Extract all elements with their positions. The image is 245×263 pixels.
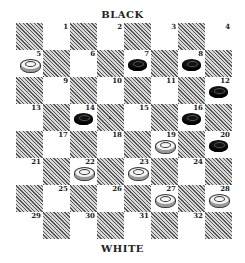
black-checker-piece[interactable] — [128, 59, 147, 71]
dark-square — [43, 158, 70, 185]
black-checker-piece[interactable] — [74, 113, 93, 125]
square-13[interactable]: 13 — [16, 104, 43, 131]
square-number: 29 — [31, 212, 41, 220]
square-25[interactable]: 25 — [43, 185, 70, 212]
square-number: 16 — [193, 104, 203, 112]
dark-square — [43, 212, 70, 239]
dark-square — [151, 104, 178, 131]
square-18[interactable]: 18 — [97, 131, 124, 158]
square-number: 5 — [36, 50, 41, 58]
square-number: 14 — [85, 104, 95, 112]
white-checker-piece[interactable] — [209, 194, 230, 208]
square-number: 2 — [117, 23, 122, 31]
square-20[interactable]: 20 — [205, 131, 232, 158]
white-checker-piece[interactable] — [155, 140, 176, 154]
square-30[interactable]: 30 — [70, 212, 97, 239]
square-26[interactable]: 26 — [97, 185, 124, 212]
square-number: 27 — [166, 185, 176, 193]
square-number: 13 — [31, 104, 41, 112]
square-3[interactable]: 3 — [151, 23, 178, 50]
square-number: 19 — [166, 131, 176, 139]
dark-square — [178, 131, 205, 158]
dark-square — [124, 185, 151, 212]
marker-dot — [109, 117, 111, 119]
dark-square — [205, 50, 232, 77]
dark-square — [97, 158, 124, 185]
square-5[interactable]: 5 — [16, 50, 43, 77]
dark-square — [70, 23, 97, 50]
square-number: 10 — [112, 77, 122, 85]
square-8[interactable]: 8 — [178, 50, 205, 77]
square-number: 21 — [31, 158, 41, 166]
checkers-board: 1234567891011121314151617181920212223242… — [16, 23, 232, 239]
square-11[interactable]: 11 — [151, 77, 178, 104]
square-2[interactable]: 2 — [97, 23, 124, 50]
square-number: 32 — [193, 212, 203, 220]
square-number: 20 — [220, 131, 230, 139]
dark-square — [205, 212, 232, 239]
square-6[interactable]: 6 — [70, 50, 97, 77]
square-10[interactable]: 10 — [97, 77, 124, 104]
square-number: 7 — [144, 50, 149, 58]
bottom-side-label: WHITE — [0, 243, 245, 254]
dark-square — [178, 77, 205, 104]
dark-square — [151, 50, 178, 77]
square-number: 22 — [85, 158, 95, 166]
square-number: 11 — [166, 77, 176, 85]
black-checker-piece[interactable] — [209, 86, 228, 98]
square-12[interactable]: 12 — [205, 77, 232, 104]
dark-square — [124, 131, 151, 158]
square-9[interactable]: 9 — [43, 77, 70, 104]
square-27[interactable]: 27 — [151, 185, 178, 212]
square-number: 28 — [220, 185, 230, 193]
square-number: 3 — [171, 23, 176, 31]
white-checker-piece[interactable] — [20, 59, 41, 73]
dark-square — [205, 104, 232, 131]
square-21[interactable]: 21 — [16, 158, 43, 185]
square-28[interactable]: 28 — [205, 185, 232, 212]
square-4[interactable]: 4 — [205, 23, 232, 50]
square-number: 31 — [139, 212, 149, 220]
dark-square — [70, 185, 97, 212]
square-23[interactable]: 23 — [124, 158, 151, 185]
dark-square — [16, 185, 43, 212]
dark-square — [70, 77, 97, 104]
square-number: 6 — [90, 50, 95, 58]
dark-square — [151, 158, 178, 185]
dark-square — [16, 23, 43, 50]
square-1[interactable]: 1 — [43, 23, 70, 50]
square-number: 30 — [85, 212, 95, 220]
square-24[interactable]: 24 — [178, 158, 205, 185]
square-7[interactable]: 7 — [124, 50, 151, 77]
square-17[interactable]: 17 — [43, 131, 70, 158]
dark-square — [124, 23, 151, 50]
dark-square — [16, 131, 43, 158]
dark-square — [178, 23, 205, 50]
dark-square — [43, 50, 70, 77]
square-32[interactable]: 32 — [178, 212, 205, 239]
square-number: 23 — [139, 158, 149, 166]
square-15[interactable]: 15 — [124, 104, 151, 131]
square-number: 1 — [63, 23, 68, 31]
square-14[interactable]: 14 — [70, 104, 97, 131]
square-number: 17 — [58, 131, 68, 139]
square-31[interactable]: 31 — [124, 212, 151, 239]
square-number: 18 — [112, 131, 122, 139]
dark-square — [178, 185, 205, 212]
square-22[interactable]: 22 — [70, 158, 97, 185]
square-19[interactable]: 19 — [151, 131, 178, 158]
square-29[interactable]: 29 — [16, 212, 43, 239]
square-number: 4 — [225, 23, 230, 31]
black-checker-piece[interactable] — [182, 113, 201, 125]
dark-square — [205, 158, 232, 185]
white-checker-piece[interactable] — [74, 167, 95, 181]
black-checker-piece[interactable] — [209, 140, 228, 152]
black-checker-piece[interactable] — [182, 59, 201, 71]
square-16[interactable]: 16 — [178, 104, 205, 131]
dark-square — [151, 212, 178, 239]
dark-square — [97, 50, 124, 77]
dark-square — [70, 131, 97, 158]
white-checker-piece[interactable] — [128, 167, 149, 181]
top-side-label: BLACK — [0, 9, 245, 20]
white-checker-piece[interactable] — [155, 194, 176, 208]
